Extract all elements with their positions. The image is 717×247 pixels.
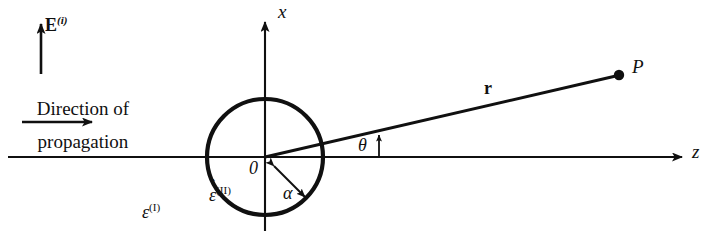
hat-accent-icon: ˆ bbox=[210, 177, 214, 190]
incident-field-label: E(i) bbox=[45, 16, 68, 34]
field-point-label: P bbox=[632, 57, 644, 76]
sphere-radius-label: α bbox=[283, 184, 292, 202]
z-axis-label: z bbox=[692, 142, 699, 161]
inside-permittivity-superscript: (II) bbox=[216, 184, 231, 196]
scattering-geometry-diagram: E(i) Direction of propagation x z 0 α θ … bbox=[0, 0, 717, 247]
inside-permittivity-label: ˆε(II) bbox=[209, 186, 231, 204]
position-vector-label: r bbox=[484, 79, 492, 97]
propagation-direction-line1: Direction of bbox=[8, 99, 158, 118]
r-vector-line bbox=[265, 76, 618, 158]
scattering-angle-label: θ bbox=[358, 136, 367, 154]
incident-field-superscript: (i) bbox=[57, 14, 68, 26]
origin-label: 0 bbox=[249, 159, 258, 177]
outside-permittivity-label: ε(I) bbox=[142, 203, 160, 221]
epsilon-hat-group: ˆε bbox=[209, 186, 216, 204]
propagation-direction-line2: propagation bbox=[8, 132, 158, 151]
propagation-direction-label: Direction of propagation bbox=[8, 99, 158, 151]
x-axis-label: x bbox=[278, 2, 286, 21]
field-point-dot bbox=[614, 70, 624, 80]
outside-permittivity-superscript: (I) bbox=[149, 201, 160, 213]
